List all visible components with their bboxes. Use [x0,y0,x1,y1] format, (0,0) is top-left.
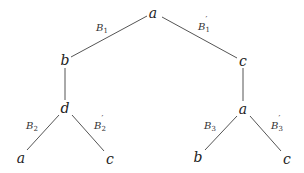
edge-label-prime: ′ [205,15,207,23]
edge-label-b3-prime: B′3 [271,121,283,133]
edge-label-sub: 3 [278,125,282,133]
edge-label-b3: B3 [204,121,216,133]
edge-label-prime: ′ [101,114,103,122]
tree-edges [0,0,304,173]
edge-label-b1-prime: B′1 [198,22,210,34]
leaf-a: a [17,151,25,165]
edge-root-b [71,16,147,57]
edge-label-b2: B2 [26,121,38,133]
edge-label-sub: 2 [101,125,105,133]
node-b: b [61,53,70,67]
node-a-right: a [239,102,247,116]
leaf-b: b [194,150,203,164]
edge-label-base: B [94,120,101,131]
edge-label-prime: ′ [278,114,280,122]
edge-label-base: B [198,21,205,32]
edge-label-sub: 1 [103,27,107,35]
edge-label-sub: 2 [33,125,37,133]
leaf-c-left: c [106,152,114,166]
node-d: d [61,101,70,115]
edge-label-sub: 3 [211,125,215,133]
edge-label-b2-prime: B′2 [94,121,106,133]
edge-label-b1: B1 [96,23,108,35]
node-c: c [239,54,247,68]
node-root: a [149,6,157,20]
leaf-c-right: c [283,152,291,166]
edge-label-base: B [271,120,278,131]
edge-label-sub: 1 [205,26,209,34]
